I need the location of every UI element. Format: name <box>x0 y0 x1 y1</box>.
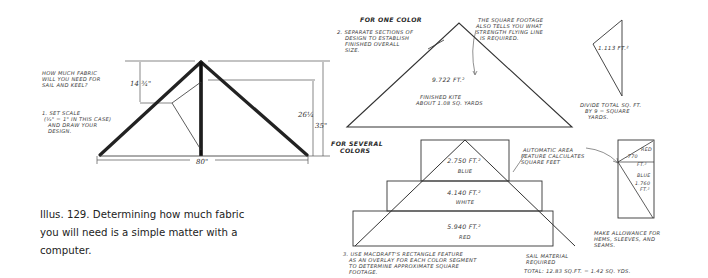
divide-note: DIVIDE TOTAL SQ. FT. BY 9 = SQUARE YARDS… <box>580 102 643 120</box>
dim-height-inner: 26¼ <box>297 111 314 119</box>
several-colors-section: FOR SEVERAL COLORS 2.750 FT.² BLUE 4.140… <box>331 140 662 275</box>
figure-caption: Illus. 129. Determining how much fabric … <box>40 206 250 260</box>
finished-kite-text: FINISHED KITE ABOUT 1.08 SQ. YARDS <box>415 94 483 106</box>
blue-band-label: 2.750 FT.² BLUE <box>447 157 483 174</box>
one-color-heading: FOR ONE COLOR <box>360 16 422 23</box>
sail-area: 9.722 FT.² <box>432 76 465 83</box>
red-band-label: 5.940 FT.² RED <box>447 223 483 240</box>
left-kite-drawing: 14 ¾" 26¼ 35" 80" HOW MUCH FABRIC WILL Y… <box>42 61 330 166</box>
square-footage-note: THE SQUARE FOOTAGE ALSO TELLS YOU WHAT S… <box>475 17 545 41</box>
keel-area: 1.113 FT.² <box>598 45 629 51</box>
several-colors-heading: FOR SEVERAL COLORS <box>331 140 386 154</box>
allowance-note: MAKE ALLOWANCE FOR HEMS, SLEEVES, AND SE… <box>594 230 662 248</box>
dim-width: 80" <box>196 158 208 166</box>
step3-text: 3. USE MACDRAFT'S RECTANGLE FEATURE AS A… <box>343 251 479 275</box>
step2-text: 2. SEPARATE SECTIONS OF DESIGN TO ESTABL… <box>337 29 415 53</box>
step1-text: 1. SET SCALE (¼" = 1" IN THIS CASE) AND … <box>42 110 113 134</box>
dim-height-outer: 35" <box>315 122 327 130</box>
white-band-rect <box>387 181 542 211</box>
total-text: TOTAL: 12.83 SQ.FT. = 1.42 SQ. YDS. <box>524 268 631 274</box>
caption-line: Illus. 129. Determining how much fabric <box>40 206 250 224</box>
dim-keel-depth: 14 ¾" <box>130 80 151 88</box>
keel-blue-label: BLUE 1.760 FT.² <box>635 173 653 192</box>
auto-area-note: AUTOMATIC AREA FEATURE CALCULATES SQUARE… <box>521 147 587 165</box>
white-band-label: 4.140 FT.² WHITE <box>447 189 483 205</box>
keel-red-label: RED .770 FT.² <box>626 147 654 167</box>
caption-line: you will need is a simple matter with a <box>40 224 250 242</box>
sail-material-text: SAIL MATERIAL REQUIRED <box>526 253 570 265</box>
one-color-section: FOR ONE COLOR 2. SEPARATE SECTIONS OF DE… <box>337 16 643 127</box>
question-text: HOW MUCH FABRIC WILL YOU NEED FOR SAIL A… <box>42 70 103 88</box>
caption-line: computer. <box>40 242 250 260</box>
